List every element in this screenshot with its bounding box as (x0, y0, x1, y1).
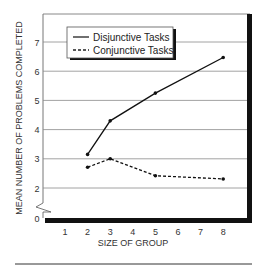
y-tick-label: 4 (34, 125, 39, 135)
x-tick-label: 2 (85, 227, 90, 237)
line-chart: 0234567 12345678 Disjunctive Tasks Conju… (0, 0, 266, 267)
y-tick-label: 7 (34, 38, 39, 48)
x-tick-label: 6 (175, 227, 180, 237)
legend-label-disjunctive: Disjunctive Tasks (93, 32, 170, 43)
y-tick-label: 3 (34, 154, 39, 164)
legend-label-conjunctive: Conjunctive Tasks (93, 45, 173, 56)
y-axis-label: MEAN NUMBER OF PROBLEMS COMPLETED (14, 21, 24, 215)
series-line (88, 57, 224, 154)
x-tick-label: 4 (130, 227, 135, 237)
y-tick-label: 5 (34, 96, 39, 106)
data-point (154, 91, 158, 95)
x-tick-label: 5 (153, 227, 158, 237)
y-tick-label: 2 (34, 184, 39, 194)
data-series (86, 56, 225, 181)
data-point (154, 174, 158, 178)
data-point (108, 157, 112, 161)
x-tick-label: 1 (62, 227, 67, 237)
data-point (221, 177, 225, 181)
x-tick-label: 8 (221, 227, 226, 237)
x-axis-label: SIZE OF GROUP (98, 238, 169, 248)
y-tick-label: 6 (34, 67, 39, 77)
data-point (221, 56, 225, 60)
y-axis-ticks: 0234567 (34, 38, 39, 224)
data-point (86, 165, 90, 169)
x-axis-ticks: 12345678 (62, 227, 225, 237)
x-tick-label: 3 (108, 227, 113, 237)
y-tick-label: 0 (34, 214, 39, 224)
gridlines (43, 42, 247, 188)
x-tick-label: 7 (198, 227, 203, 237)
data-point (86, 153, 90, 157)
data-point (108, 119, 112, 123)
legend: Disjunctive Tasks Conjunctive Tasks (67, 27, 176, 60)
